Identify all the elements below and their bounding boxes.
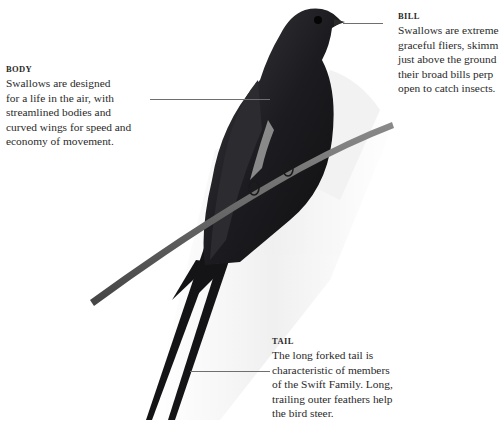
bill-callout: BILL Swallows are extreme graceful flier… [398, 10, 503, 96]
bill-heading: BILL [398, 10, 503, 22]
bill-leader-line [343, 23, 383, 24]
body-heading: BODY [6, 63, 166, 75]
tail-heading: TAIL [272, 335, 442, 347]
eye [314, 16, 322, 24]
body-leader-line [150, 99, 270, 100]
tail-callout: TAIL The long forked tail is characteris… [272, 335, 442, 421]
body-callout: BODY Swallows are designed for a life in… [6, 63, 166, 149]
body-description: Swallows are designed for a life in the … [6, 76, 166, 149]
tail-leader-line [190, 371, 270, 372]
bill-description: Swallows are extreme graceful fliers, sk… [398, 23, 503, 96]
tail-description: The long forked tail is characteristic o… [272, 348, 442, 421]
